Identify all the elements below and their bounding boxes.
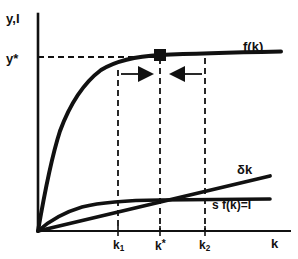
reference-line-group (38, 57, 205, 231)
y-star-label: y* (6, 52, 18, 65)
k1-base: k (113, 238, 120, 252)
k2-base: k (199, 238, 206, 252)
k1-tick-label: k1 (113, 239, 124, 253)
arrow-left-toward-k-star (169, 66, 202, 82)
convergence-arrow-group (121, 66, 202, 82)
k2-subscript: 2 (206, 244, 211, 253)
k2-tick-label: k2 (199, 239, 210, 253)
k1-subscript: 1 (120, 244, 125, 253)
x-axis-label: k (271, 237, 278, 250)
arrow-right-toward-k-star (121, 66, 154, 82)
kstar-superscript: * (162, 238, 166, 249)
production-function-label: f(k) (243, 40, 263, 53)
k-star-tick-label: k* (155, 239, 166, 252)
y-axis-label: y,I (6, 12, 20, 25)
steady-state-marker (154, 49, 166, 61)
figure-canvas: y,I y* f(k) δk s f(k)=I k1 k* k2 k (0, 0, 298, 259)
kstar-base: k (155, 239, 162, 253)
saving-investment-label: s f(k)=I (212, 199, 251, 211)
depreciation-line-label: δk (237, 163, 252, 176)
